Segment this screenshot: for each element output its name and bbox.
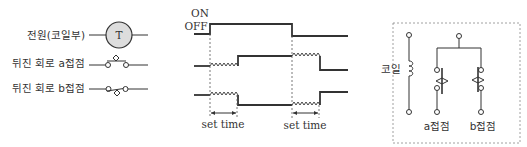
- schematic-box: 코일 a접점 b접점: [381, 23, 520, 143]
- schematic-a-contact-icon: [435, 68, 449, 115]
- set-time-arrow-1: [211, 111, 236, 115]
- legend-label-power: 전원(코일부): [27, 29, 85, 41]
- legend-label-a-contact: 뒤진 회로 a접점: [12, 57, 85, 69]
- coil-label: 코일: [381, 63, 401, 75]
- delay-b-contact-icon: [89, 87, 148, 97]
- set-time-label-1: set time: [202, 118, 245, 130]
- legend-label-b-contact: 뒤진 회로 b접점: [12, 82, 85, 94]
- signal-power: [194, 24, 348, 36]
- coil-icon: [407, 33, 413, 115]
- b-contact-label: b접점: [470, 120, 497, 132]
- coil-letter: T: [115, 29, 122, 41]
- schematic-b-contact-icon: [472, 67, 484, 115]
- on-label: ON: [191, 7, 209, 19]
- set-time-label-2: set time: [284, 119, 327, 131]
- legend: 전원(코일부) T 뒤진 회로 a접점 뒤진 회로 b접점: [12, 22, 148, 96]
- timer-relay-diagram: 전원(코일부) T 뒤진 회로 a접점 뒤진 회로 b접점 ON OFF: [0, 0, 527, 147]
- delay-a-contact-icon: [89, 55, 148, 68]
- set-time-arrow-2: [293, 111, 318, 115]
- off-label: OFF: [184, 20, 207, 32]
- a-contact-label: a접점: [424, 120, 450, 132]
- timing-chart: ON OFF set time set t: [184, 7, 348, 131]
